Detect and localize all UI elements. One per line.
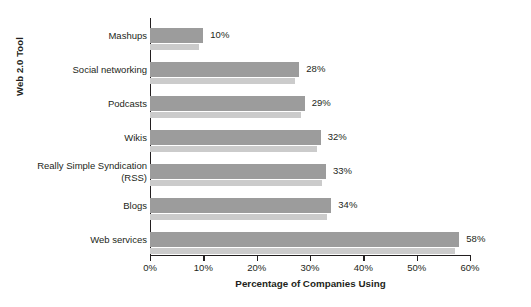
- x-axis-tick: [203, 256, 204, 261]
- bar: [150, 28, 203, 43]
- bar-shadow: [150, 44, 199, 50]
- category-label-line: (RSS): [1, 172, 147, 184]
- bar-value-label: 29%: [312, 97, 331, 108]
- category-label-line: Podcasts: [1, 98, 147, 110]
- bar-value-label: 33%: [333, 165, 352, 176]
- bar-value-label: 32%: [328, 131, 347, 142]
- bar-group: 33%: [150, 164, 470, 198]
- bar-shadow: [150, 146, 317, 152]
- category-label-line: Really Simple Syndication: [1, 160, 147, 172]
- category-label: Really Simple Syndication(RSS): [1, 160, 147, 183]
- bar: [150, 96, 305, 111]
- category-label: Social networking: [1, 64, 147, 76]
- bar: [150, 232, 459, 247]
- bar-shadow: [150, 214, 327, 220]
- category-label: Blogs: [1, 200, 147, 212]
- category-label-line: Social networking: [1, 64, 147, 76]
- x-axis-tick: [150, 256, 151, 261]
- x-axis-tick-label: 40%: [354, 262, 373, 273]
- x-axis-tick-label: 10%: [194, 262, 213, 273]
- bar: [150, 62, 299, 77]
- bar-shadow: [150, 112, 301, 118]
- bar-value-label: 58%: [466, 233, 485, 244]
- category-label-line: Web services: [1, 234, 147, 246]
- category-label-line: Mashups: [1, 30, 147, 42]
- bar-shadow: [150, 248, 455, 254]
- bar-value-label: 34%: [338, 199, 357, 210]
- bar-group: 34%: [150, 198, 470, 232]
- x-axis-tick-label: 50%: [407, 262, 426, 273]
- x-axis-tick-label: 30%: [300, 262, 319, 273]
- category-label: Mashups: [1, 30, 147, 42]
- x-axis-tick-label: 60%: [460, 262, 479, 273]
- bar: [150, 130, 321, 145]
- bar-group: 32%: [150, 130, 470, 164]
- bar-value-label: 10%: [210, 29, 229, 40]
- bar: [150, 198, 331, 213]
- x-axis-tick: [417, 256, 418, 261]
- x-axis-tick: [363, 256, 364, 261]
- bar-shadow: [150, 180, 322, 186]
- plot-area: 10%28%29%32%33%34%58%: [150, 18, 470, 256]
- x-axis-tick: [470, 256, 471, 261]
- bar-shadow: [150, 78, 295, 84]
- bar-chart: Web 2.0 Tool MashupsSocial networkingPod…: [0, 0, 531, 307]
- bar-group: 10%: [150, 28, 470, 62]
- bar: [150, 164, 326, 179]
- bar-group: 29%: [150, 96, 470, 130]
- category-axis-labels: MashupsSocial networkingPodcastsWikisRea…: [0, 18, 147, 256]
- category-label: Podcasts: [1, 98, 147, 110]
- category-label-line: Blogs: [1, 200, 147, 212]
- category-label: Wikis: [1, 132, 147, 144]
- x-axis-tick: [257, 256, 258, 261]
- category-label: Web services: [1, 234, 147, 246]
- x-axis-tick-label: 0%: [143, 262, 157, 273]
- category-label-line: Wikis: [1, 132, 147, 144]
- x-axis-tick: [310, 256, 311, 261]
- bar-group: 28%: [150, 62, 470, 96]
- bar-value-label: 28%: [306, 63, 325, 74]
- x-axis-title: Percentage of Companies Using: [150, 278, 471, 289]
- x-axis-tick-label: 20%: [247, 262, 266, 273]
